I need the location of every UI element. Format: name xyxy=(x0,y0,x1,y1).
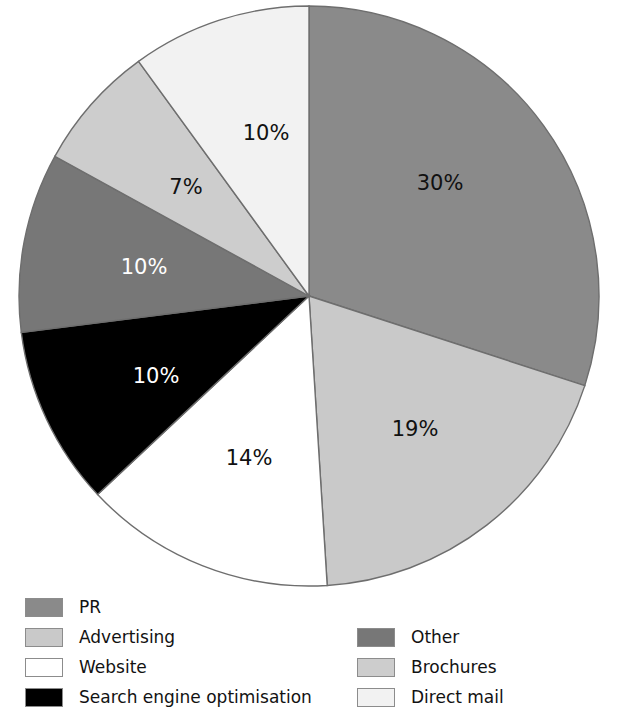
legend-swatch-icon xyxy=(25,598,63,617)
legend-item-label: PR xyxy=(79,598,101,617)
legend-item-label: Search engine optimisation xyxy=(79,688,312,707)
pie-slice-value-label: 10% xyxy=(133,364,180,388)
pie-chart-graphic: 30%19%14%10%10%7%10% xyxy=(0,0,620,600)
chart-legend: PRAdvertisingWebsiteSearch engine optimi… xyxy=(0,592,620,714)
legend-swatch-icon xyxy=(357,688,395,707)
legend-item-advertising[interactable]: Advertising xyxy=(25,622,325,652)
legend-item-label: Website xyxy=(79,658,147,677)
legend-item-label: Advertising xyxy=(79,628,175,647)
pie-slice-value-label: 19% xyxy=(392,417,439,441)
pie-slice-value-label: 14% xyxy=(226,446,273,470)
legend-swatch-icon xyxy=(357,658,395,677)
legend-item-label: Other xyxy=(411,628,459,647)
legend-item-website[interactable]: Website xyxy=(25,652,325,682)
legend-item-label: Direct mail xyxy=(411,688,504,707)
pie-chart-figure: 30%19%14%10%10%7%10% PRAdvertisingWebsit… xyxy=(0,0,620,714)
pie-slice-value-label: 7% xyxy=(169,175,202,199)
legend-swatch-icon xyxy=(25,628,63,647)
pie-slice-value-label: 10% xyxy=(121,255,168,279)
legend-column-right: OtherBrochuresDirect mail xyxy=(357,592,607,712)
legend-item-brochures[interactable]: Brochures xyxy=(357,652,607,682)
legend-item-direct-mail[interactable]: Direct mail xyxy=(357,682,607,712)
legend-swatch-icon xyxy=(25,658,63,677)
legend-item-search-engine-optimisation[interactable]: Search engine optimisation xyxy=(25,682,325,712)
legend-column-left: PRAdvertisingWebsiteSearch engine optimi… xyxy=(25,592,325,712)
legend-item-label: Brochures xyxy=(411,658,497,677)
legend-item-other[interactable]: Other xyxy=(357,622,607,652)
pie-slice-value-label: 30% xyxy=(417,171,464,195)
legend-swatch-icon xyxy=(357,628,395,647)
pie-slice-group xyxy=(19,6,599,586)
legend-swatch-icon xyxy=(25,688,63,707)
legend-spacer xyxy=(357,592,607,622)
pie-slice-value-label: 10% xyxy=(243,121,290,145)
legend-item-pr[interactable]: PR xyxy=(25,592,325,622)
